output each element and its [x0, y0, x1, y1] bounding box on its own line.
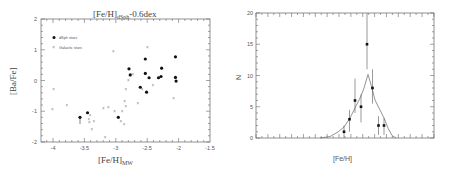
- right-data-points: [343, 13, 386, 138]
- count-point: [343, 130, 346, 133]
- galactic-star-point: ×: [125, 104, 128, 109]
- legend-galactic-marker: ×: [52, 45, 55, 50]
- dsph-star-point: [129, 73, 132, 76]
- galactic-star-point: ×: [65, 103, 68, 108]
- galactic-star-point: ×: [52, 87, 55, 92]
- dsph-star-point: [174, 80, 177, 83]
- dsph-star-point: [174, 76, 177, 79]
- dsph-star-point: [144, 57, 147, 60]
- dsph-star-point: [127, 67, 130, 70]
- left-x-tick-label: -3.5: [80, 145, 89, 151]
- dsph-star-point: [86, 111, 89, 114]
- count-point: [366, 43, 369, 46]
- left-y-tick-label: 1: [34, 47, 37, 53]
- right-x-axis-label: [Fe/H]: [333, 155, 352, 163]
- dsph-star-point: [160, 67, 163, 70]
- galactic-star-point: ×: [131, 72, 134, 77]
- right-y-tick-label: 15: [247, 41, 253, 47]
- left-y-tick-label: 2: [34, 16, 37, 22]
- legend-dsph-label: dSph stars: [59, 36, 77, 40]
- legend-galactic-label: Galactic stars: [59, 46, 82, 50]
- left-x-tick-label: -1.5: [205, 145, 214, 151]
- count-point: [354, 99, 357, 102]
- galactic-star-point: ×: [102, 106, 105, 111]
- count-point: [360, 105, 363, 108]
- galactic-star-point: ×: [121, 109, 124, 114]
- right-y-tick-label: 0: [250, 135, 253, 141]
- left-y-tick-label: -2: [32, 139, 37, 145]
- galactic-star-point: ×: [123, 99, 126, 104]
- galactic-star-point: ×: [92, 119, 95, 124]
- right-axis-ticks: [256, 13, 434, 138]
- dsph-star-point: [159, 75, 162, 78]
- right-tick-labels: 05101520: [247, 10, 253, 141]
- model-fit-curve: [320, 75, 396, 139]
- galactic-star-point: ×: [51, 107, 54, 112]
- galactic-star-point: ×: [172, 96, 175, 101]
- galactic-star-point: ×: [125, 87, 128, 92]
- galactic-star-point: ×: [152, 83, 155, 88]
- galactic-star-point: ×: [104, 135, 107, 140]
- left-y-axis-label: [Ba/Fe]: [8, 68, 18, 96]
- dsph-star-point: [147, 76, 150, 79]
- dsph-star-point: [144, 72, 147, 75]
- left-legend: dSph stars × Galactic stars: [52, 36, 82, 50]
- left-x-tick-label: -2.5: [142, 145, 151, 151]
- figure: [Fe/H]dSph-0.6dex -4-3.5-3-2.5-2-1.5-2-1…: [0, 0, 450, 171]
- right-plot-frame: [256, 13, 434, 138]
- galactic-star-point: ×: [113, 109, 116, 114]
- right-y-tick-label: 20: [247, 10, 253, 16]
- galactic-star-point: ×: [136, 101, 139, 106]
- right-histogram-chart: 05101520 N [Fe/H]: [235, 10, 434, 163]
- galactic-star-point: ×: [87, 117, 90, 122]
- left-chart-title: [Fe/H]dSph-0.6dex: [93, 9, 157, 20]
- dsph-star-point: [145, 91, 148, 94]
- right-y-tick-label: 5: [250, 104, 253, 110]
- dsph-star-point: [174, 55, 177, 58]
- count-point: [377, 124, 380, 127]
- dsph-star-point: [117, 116, 120, 119]
- count-point: [371, 87, 374, 90]
- galactic-star-point: ×: [112, 49, 115, 54]
- galactic-star-point: ×: [91, 127, 94, 132]
- galactic-star-point: ×: [107, 105, 110, 110]
- left-x-axis-label: [Fe/H]MW: [98, 155, 133, 166]
- right-y-tick-label: 10: [247, 73, 253, 79]
- left-y-tick-label: 0: [34, 78, 37, 84]
- left-x-tick-label: -4: [51, 145, 56, 151]
- left-x-tick-label: -2: [176, 145, 181, 151]
- legend-dsph-marker: [53, 36, 56, 39]
- galactic-star-point: ×: [123, 122, 126, 127]
- left-data-points: ××××××××××××××××××××××××××: [51, 45, 178, 140]
- galactic-star-point: ×: [146, 45, 149, 50]
- left-x-tick-label: -3: [113, 145, 118, 151]
- count-point: [348, 118, 351, 121]
- galactic-star-point: ×: [127, 78, 130, 83]
- dsph-star-point: [139, 86, 142, 89]
- left-scatter-chart: [Fe/H]dSph-0.6dex -4-3.5-3-2.5-2-1.5-2-1…: [8, 9, 215, 166]
- count-point: [383, 124, 386, 127]
- right-y-axis-label: N: [235, 75, 242, 80]
- left-y-tick-label: -1: [32, 108, 37, 114]
